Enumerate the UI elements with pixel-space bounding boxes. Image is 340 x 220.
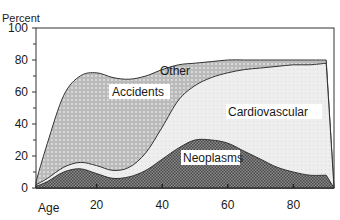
stacked-area-chart: 020406080100 20406080 Percent Age Other … xyxy=(0,0,340,220)
y-tick-label: 0 xyxy=(21,181,28,195)
y-tick-label: 20 xyxy=(15,149,29,163)
x-tick-label: 80 xyxy=(287,198,301,212)
x-tick-label: 40 xyxy=(156,198,170,212)
cardiovascular-label: Cardiovascular xyxy=(228,105,308,119)
y-axis-label: Percent xyxy=(2,12,40,24)
y-tick-label: 60 xyxy=(15,85,29,99)
accidents-label: Accidents xyxy=(112,85,164,99)
x-axis-label: Age xyxy=(38,201,60,215)
y-axis: 020406080100 xyxy=(8,21,36,195)
neoplasms-label: Neoplasms xyxy=(183,151,243,165)
other-label: Other xyxy=(160,64,190,78)
y-tick-label: 40 xyxy=(15,117,29,131)
x-tick-label: 60 xyxy=(221,198,235,212)
x-tick-label: 20 xyxy=(90,198,104,212)
y-tick-label: 80 xyxy=(15,53,29,67)
